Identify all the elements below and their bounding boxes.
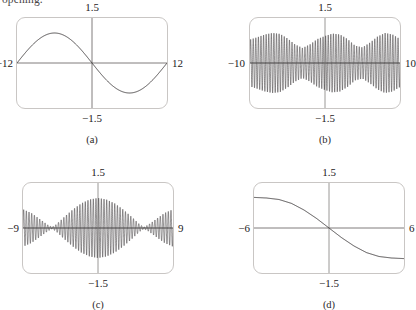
plot-screen-b <box>249 17 401 109</box>
axis-label-top-a: 1.5 <box>85 2 99 13</box>
panel-caption-a: (a) <box>86 134 98 145</box>
panel-caption-c: (c) <box>92 299 104 310</box>
plot-canvas-c <box>23 183 173 273</box>
figure-panel-d: 1.5 −1.5 −6 6 (d) <box>205 155 410 307</box>
plot-screen-c <box>22 182 174 274</box>
plot-canvas-d <box>254 183 404 273</box>
axis-label-right-d: 6 <box>409 223 415 234</box>
axis-label-top-d: 1.5 <box>322 167 336 178</box>
axis-label-bottom-d: −1.5 <box>319 278 339 289</box>
axis-label-top-b: 1.5 <box>318 2 332 13</box>
axis-label-left-b: −10 <box>219 58 245 69</box>
axis-label-right-a: 12 <box>172 58 183 69</box>
plot-screen-d <box>253 182 405 274</box>
plot-screen-a <box>16 17 168 109</box>
axis-label-right-b: 10 <box>405 58 416 69</box>
figure-panel-c: 1.5 −1.5 −9 9 (c) <box>0 155 205 307</box>
axis-label-bottom-b: −1.5 <box>315 113 335 124</box>
figure-panel-b: 1.5 −1.5 −10 10 (b) <box>205 0 410 152</box>
axis-label-left-c: −9 <box>0 223 19 234</box>
panel-caption-b: (b) <box>319 134 331 145</box>
figure-panel-a: 1.5 −1.5 −12 12 (a) <box>0 0 205 152</box>
axis-label-bottom-a: −1.5 <box>82 113 102 124</box>
axis-label-top-c: 1.5 <box>91 167 105 178</box>
axis-label-bottom-c: −1.5 <box>88 278 108 289</box>
axis-label-left-a: −12 <box>0 58 13 69</box>
panel-caption-d: (d) <box>323 299 335 310</box>
plot-canvas-a <box>17 18 167 108</box>
axis-label-left-d: −6 <box>224 223 250 234</box>
axis-label-right-c: 9 <box>178 223 184 234</box>
plot-canvas-b <box>250 18 400 108</box>
